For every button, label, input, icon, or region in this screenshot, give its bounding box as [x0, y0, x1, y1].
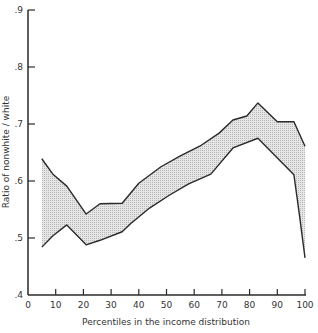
x-tick-label: 20 [78, 300, 90, 310]
chart: 0102030405060708090100 .4.5.6.7.8.9 Perc… [0, 0, 318, 333]
x-tick-label: 100 [296, 300, 313, 310]
axes [28, 10, 306, 295]
x-tick-label: 90 [272, 300, 284, 310]
x-tick-label: 80 [244, 300, 256, 310]
y-axis-ticks: .4.5.6.7.8.9 [14, 5, 35, 300]
lower-bound-line [42, 138, 305, 258]
x-tick-label: 60 [188, 300, 200, 310]
y-tick-label: .6 [14, 176, 23, 186]
x-tick-label: 0 [25, 300, 31, 310]
x-tick-label: 70 [216, 300, 228, 310]
x-tick-label: 30 [105, 300, 117, 310]
shaded-band [42, 103, 305, 258]
x-tick-label: 10 [50, 300, 62, 310]
y-tick-label: .7 [14, 119, 23, 129]
y-axis-title: Ratio of nonwhite / white [1, 95, 11, 208]
band-fill [42, 103, 305, 258]
y-tick-label: .8 [14, 62, 23, 72]
x-axis-title: Percentiles in the income distribution [82, 317, 250, 327]
x-tick-label: 40 [133, 300, 145, 310]
x-axis-ticks: 0102030405060708090100 [25, 289, 314, 310]
y-tick-label: .4 [14, 290, 23, 300]
x-tick-label: 50 [161, 300, 173, 310]
y-tick-label: .9 [14, 5, 23, 15]
y-tick-label: .5 [14, 233, 23, 243]
